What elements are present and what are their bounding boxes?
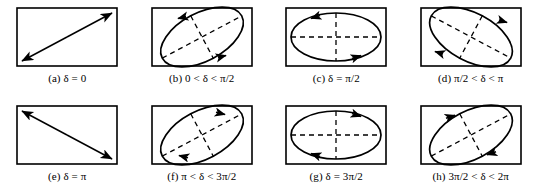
panel-e: (e) δ = π [0,98,135,196]
plot-box-h [419,104,523,166]
caption-g: (g) δ = 3π/2 [310,170,363,183]
panel-d: (d) π/2 < δ < π [404,0,538,98]
figure-grid: (a) δ = 0 [0,0,538,196]
major-axis-dashed-h [431,114,510,156]
diagram-b [150,6,254,68]
caption-f: (f) π < δ < 3π/2 [167,170,236,183]
ellipse-group-d [420,6,522,68]
arrow-down-right-e [67,135,112,159]
caption-e: (e) δ = π [48,170,86,183]
panel-a: (a) δ = 0 [0,0,135,98]
plot-box-b [150,6,254,68]
plot-box-a [15,6,119,68]
rotation-arrow-top-f [216,112,225,114]
plot-box-c [284,6,388,68]
plot-box-g [284,104,388,166]
caption-b: (b) 0 < δ < π/2 [169,72,234,85]
plot-box-f [150,104,254,166]
diagram-d [419,6,523,68]
rotation-arrow-bottom-d [435,52,443,55]
diagram-e [15,104,119,166]
ellipse-group-h [420,104,522,166]
major-axis-dashed-d [431,16,510,58]
panel-c: (c) δ = π/2 [269,0,404,98]
diagram-h [419,104,523,166]
ellipse-group-f [151,104,253,166]
diagram-f [150,104,254,166]
arrow-up-right-a [67,13,112,37]
diagram-a [15,6,119,68]
ellipse-group-b [151,6,253,68]
caption-d: (d) π/2 < δ < π [438,72,503,85]
major-axis-dashed-b [162,16,241,58]
plot-box-e [15,104,119,166]
panel-f: (f) π < δ < 3π/2 [135,98,270,196]
panel-h: (h) 3π/2 < δ < 2π [404,98,538,196]
panel-g: (g) δ = 3π/2 [269,98,404,196]
caption-c: (c) δ = π/2 [313,72,360,85]
caption-h: (h) 3π/2 < δ < 2π [432,170,509,183]
diagram-c [284,6,388,68]
major-axis-dashed-f [162,114,241,156]
panel-b: (b) 0 < δ < π/2 [135,0,270,98]
diagram-g [284,104,388,166]
arrow-up-left-e [22,111,67,135]
rotation-arrow-bottom-f [179,155,188,157]
plot-box-d [419,6,523,68]
caption-a: (a) δ = 0 [48,72,86,85]
rotation-arrow-top-d [499,20,507,23]
arrow-down-left-a [22,37,67,61]
